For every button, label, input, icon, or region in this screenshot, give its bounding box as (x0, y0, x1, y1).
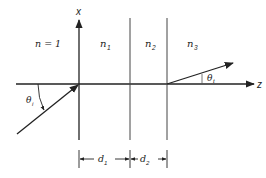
region-label-n3: n 3 (187, 38, 198, 51)
incident-angle-label: θ i (26, 95, 34, 107)
svg-text:n: n (100, 38, 106, 49)
svg-text:3: 3 (194, 44, 198, 51)
x-axis-label: x (75, 6, 82, 17)
svg-text:i: i (32, 101, 34, 107)
svg-text:2: 2 (145, 160, 150, 166)
region-label-n2: n 2 (145, 38, 156, 51)
refraction-diagram: z x n = 1 n 1 n 2 n 3 θ i θ t d 1 (0, 0, 266, 178)
svg-text:1: 1 (107, 44, 111, 51)
dimension-d2-label: d 2 (140, 153, 150, 166)
region-label-n1: n 1 (100, 38, 111, 51)
incident-ray (17, 85, 78, 134)
incident-angle-arc (38, 84, 44, 110)
z-axis-label: z (256, 79, 262, 90)
transmitted-angle-label: θ t (207, 73, 215, 84)
svg-text:t: t (213, 78, 215, 84)
dimension-d1-label: d 1 (98, 153, 107, 166)
svg-text:n: n (187, 38, 193, 49)
svg-text:1: 1 (104, 160, 107, 166)
svg-text:2: 2 (151, 44, 156, 51)
region-label-n0: n = 1 (35, 38, 61, 49)
transmitted-ray (167, 63, 233, 84)
svg-text:n: n (145, 38, 151, 49)
